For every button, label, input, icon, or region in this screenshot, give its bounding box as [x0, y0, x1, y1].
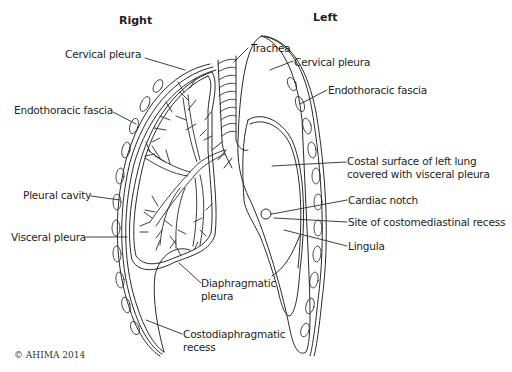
label-costal-surface-line2: covered with visceral pleura: [347, 168, 490, 180]
heading-left: Left: [313, 11, 338, 24]
label-diaphragmatic-pleura-line2: pleura: [201, 290, 233, 302]
label-costal-surface-line1: Costal surface of left lung: [347, 155, 476, 167]
label-diaphragmatic-pleura-line1: Diaphragmatic: [201, 277, 276, 289]
left-parietal-pleura: [238, 36, 310, 353]
label-right-cervical-pleura: Cervical pleura: [65, 48, 141, 60]
trachea: [212, 56, 248, 168]
right-chest-wall: [112, 64, 216, 356]
costomediastinal-recess-site: [261, 209, 271, 219]
label-pleural-cavity: Pleural cavity: [23, 189, 91, 201]
copyright-notice: © AHIMA 2014: [14, 350, 85, 360]
label-left-cervical-pleura: Cervical pleura: [294, 56, 370, 68]
heading-right: Right: [119, 14, 152, 27]
label-trachea: Trachea: [251, 42, 291, 54]
right-bronchial-tree: [140, 78, 225, 256]
pleura-diagram: Right Left Cervical pleura Trachea Cervi…: [0, 0, 512, 372]
label-cardiac-notch: Cardiac notch: [348, 194, 418, 206]
cardiac-notch-arc: [272, 235, 300, 276]
label-costomediastinal-recess: Site of costomediastinal recess: [348, 216, 505, 228]
label-right-endothoracic-fascia: Endothoracic fascia: [14, 104, 113, 116]
label-left-endothoracic-fascia: Endothoracic fascia: [328, 84, 427, 96]
label-lingula: Lingula: [348, 240, 385, 252]
label-visceral-pleura: Visceral pleura: [11, 231, 86, 243]
label-costodiaphragmatic-line2: recess: [183, 341, 216, 353]
label-costodiaphragmatic-line1: Costodiaphragmatic: [183, 328, 285, 340]
